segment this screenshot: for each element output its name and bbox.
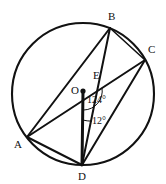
point-label-a: A	[14, 138, 22, 150]
point-label-b: B	[108, 10, 115, 22]
segment-cd	[82, 60, 145, 165]
point-label-o: O	[71, 84, 79, 96]
segment-ac	[27, 60, 145, 137]
point-label-d: D	[78, 170, 86, 182]
circle-geometry-diagram: A B C D O E 124° 12°	[0, 0, 166, 184]
center-point-dot	[80, 88, 85, 93]
point-label-c: C	[148, 43, 155, 55]
segment-ad	[27, 137, 82, 165]
segment-bc	[110, 28, 145, 60]
angle-label-12: 12°	[92, 115, 106, 126]
angle-label-124: 124°	[87, 94, 106, 105]
point-label-e: E	[93, 69, 100, 81]
segment-od	[82, 91, 83, 165]
geometry-figure: A B C D O E 124° 12°	[0, 0, 166, 184]
